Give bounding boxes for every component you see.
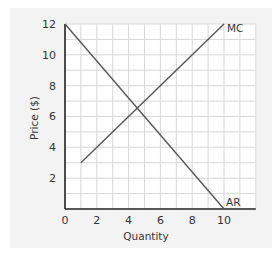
x-tick-label: 8 (189, 214, 196, 227)
chart: 24681012 0246810 MCAR Quantity Price ($) (0, 0, 279, 254)
x-tick-label: 2 (93, 214, 100, 227)
y-tick-label: 8 (49, 80, 56, 93)
x-tick-label: 4 (125, 214, 132, 227)
y-tick-label: 10 (42, 49, 56, 62)
y-tick-label: 12 (42, 18, 56, 31)
y-tick-label: 2 (49, 172, 56, 185)
curve-label-ar: AR (226, 196, 240, 208)
x-tick-labels: 0246810 (62, 214, 232, 227)
x-tick-label: 6 (157, 214, 164, 227)
x-tick-label: 0 (62, 214, 69, 227)
y-tick-labels: 24681012 (42, 18, 56, 185)
y-tick-label: 4 (49, 141, 56, 154)
curve-label-mc: MC (227, 22, 243, 34)
x-tick-label: 10 (217, 214, 231, 227)
y-axis-label: Price ($) (28, 96, 40, 140)
y-tick-label: 6 (49, 110, 56, 123)
x-axis-label: Quantity (123, 230, 168, 242)
